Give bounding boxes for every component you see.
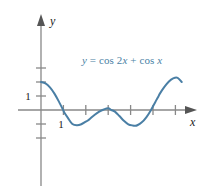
plot-canvas: y x 1 1 y = cos 2x + cos x [0, 0, 211, 188]
y-tick-label-1: 1 [25, 90, 31, 102]
x-axis-label: x [189, 115, 196, 129]
x-tick-label-1: 1 [58, 118, 64, 130]
x-axis-arrowhead [185, 106, 197, 114]
y-axis-arrowhead [37, 14, 45, 26]
math-figure-graph: y x 1 1 y = cos 2x + cos x [0, 0, 211, 188]
equation-label: y = cos 2x + cos x [81, 54, 162, 66]
y-axis-label: y [49, 14, 56, 28]
